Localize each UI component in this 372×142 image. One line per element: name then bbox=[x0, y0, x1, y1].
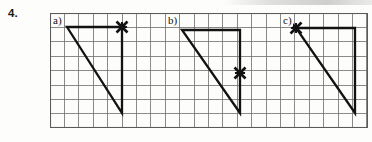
triangle-figures-svg bbox=[50, 13, 368, 128]
x-mark-icon bbox=[117, 22, 128, 33]
figure-label-b: b) bbox=[167, 15, 178, 26]
figure-label-c: c) bbox=[282, 15, 293, 26]
figure-label-a: a) bbox=[52, 15, 63, 26]
graph-paper-grid bbox=[50, 13, 368, 128]
x-mark-center bbox=[238, 71, 241, 74]
figure-a bbox=[67, 22, 128, 114]
scan-artifact-band bbox=[0, 0, 372, 5]
x-mark-center bbox=[120, 25, 123, 28]
triangle-outline bbox=[67, 27, 122, 113]
figure-c bbox=[291, 23, 356, 114]
x-mark-icon bbox=[235, 68, 246, 79]
figure-b bbox=[182, 30, 246, 113]
x-mark-center bbox=[294, 26, 297, 29]
triangle-outline bbox=[296, 28, 355, 113]
worksheet-page: 4. a) b) c) bbox=[0, 0, 372, 142]
exercise-number: 4. bbox=[8, 7, 18, 19]
triangle-outline bbox=[182, 30, 240, 113]
